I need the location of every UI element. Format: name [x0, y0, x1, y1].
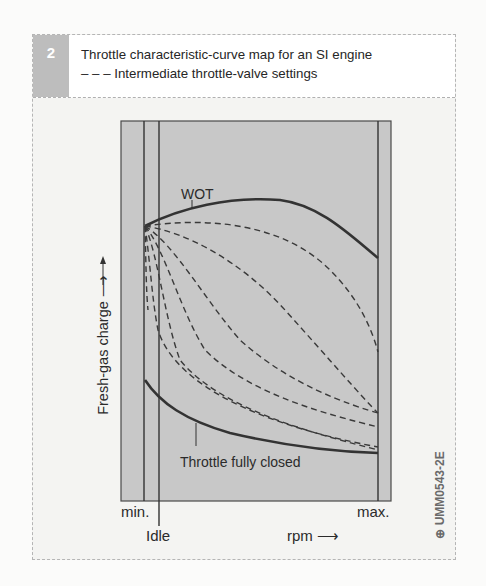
y-axis-arrow-head: [100, 256, 106, 264]
x-axis-label: rpm ⟶: [287, 527, 339, 545]
x-min-label: min.: [121, 503, 149, 520]
idle-label: Idle: [146, 527, 170, 544]
y-axis-label: Fresh-gas charge ⟶: [95, 275, 111, 415]
plot-frame: [121, 121, 391, 501]
wot-label: WOT: [181, 186, 214, 202]
x-max-label: max.: [357, 503, 390, 520]
throttle-map-plot: [0, 0, 486, 586]
closed-throttle-label: Throttle fully closed: [180, 454, 301, 470]
figure-code: ⊕ UMM0543-2E: [433, 451, 447, 538]
